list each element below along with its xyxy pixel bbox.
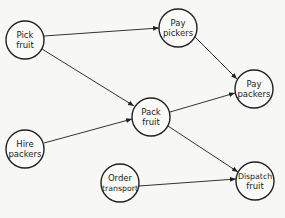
- node-label: fruit: [16, 40, 34, 50]
- edge-pick-fruit-to-pay-pickers: [44, 28, 159, 36]
- node-label: Hire: [16, 139, 33, 149]
- edge-pack-fruit-to-dispatch-fruit: [168, 126, 238, 172]
- edge-pack-fruit-to-pay-packers: [170, 93, 235, 112]
- edge-pick-fruit-to-pack-fruit: [42, 49, 134, 106]
- node-dispatch-fruit: Dispatch fruit: [236, 162, 274, 200]
- node-pay-packers: Pay packers: [235, 70, 273, 108]
- node-label: fruit: [142, 117, 160, 127]
- node-label: pickers: [163, 28, 194, 38]
- node-label: Pay: [247, 79, 262, 89]
- node-label: transport: [102, 184, 138, 193]
- node-label: Pick: [17, 30, 34, 40]
- node-label: packers: [237, 89, 271, 99]
- node-label: Pack: [141, 107, 161, 117]
- activity-network-diagram: Pick fruit Pay pickers Pay packers Pack …: [0, 0, 285, 218]
- node-hire-packers: Hire packers: [6, 130, 44, 168]
- node-label: Order: [108, 173, 133, 183]
- node-label: packers: [8, 149, 42, 159]
- node-pay-pickers: Pay pickers: [159, 9, 197, 47]
- node-pick-fruit: Pick fruit: [6, 21, 44, 59]
- edge-hire-packers-to-pack-fruit: [44, 119, 132, 143]
- node-label: Pay: [171, 18, 186, 28]
- node-label: fruit: [246, 181, 264, 191]
- node-pack-fruit: Pack fruit: [132, 98, 170, 136]
- node-order-transport: Order transport: [101, 164, 139, 202]
- edge-pay-pickers-to-pay-packers: [195, 37, 237, 79]
- node-label: Dispatch: [238, 172, 272, 181]
- edge-order-transport-to-dispatch-fruit: [139, 179, 236, 186]
